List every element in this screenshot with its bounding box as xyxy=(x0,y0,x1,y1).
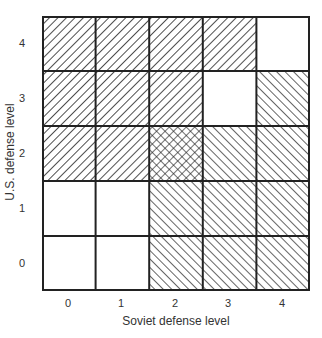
grid-cell-us1-soviet4 xyxy=(256,181,310,236)
grid-cell-us3-soviet3 xyxy=(203,71,257,126)
grid-cell-us2-soviet1 xyxy=(96,126,150,181)
grid-cell-us0-soviet3 xyxy=(203,236,257,291)
y-tick-4: 4 xyxy=(12,37,32,49)
grid-cell-us2-soviet2 xyxy=(149,126,203,181)
grid-cell-us0-soviet4 xyxy=(256,236,310,291)
grid-cell-us2-soviet3 xyxy=(203,126,257,181)
grid-cell-us3-soviet2 xyxy=(149,71,203,126)
x-tick-1: 1 xyxy=(111,297,131,309)
grid-cell-us4-soviet2 xyxy=(149,16,203,71)
grid-cell-us4-soviet3 xyxy=(203,16,257,71)
grid-cell-us1-soviet1 xyxy=(96,181,150,236)
grid-cell-us1-soviet3 xyxy=(203,181,257,236)
grid-cell-us2-soviet4 xyxy=(256,126,310,181)
grid-cell-us1-soviet0 xyxy=(42,181,96,236)
grid-cell-us4-soviet1 xyxy=(96,16,150,71)
y-tick-0: 0 xyxy=(12,257,32,269)
grid-cell-us4-soviet0 xyxy=(42,16,96,71)
grid-cell-us0-soviet2 xyxy=(149,236,203,291)
grid-cell-us3-soviet4 xyxy=(256,71,310,126)
grid-cell-us4-soviet4 xyxy=(256,16,310,71)
x-tick-4: 4 xyxy=(272,297,292,309)
defense-level-grid xyxy=(42,16,310,291)
grid-cell-us3-soviet1 xyxy=(96,71,150,126)
grid-cell-us0-soviet1 xyxy=(96,236,150,291)
grid-cell-us2-soviet0 xyxy=(42,126,96,181)
y-axis-label: U.S. defense level xyxy=(3,87,17,217)
x-tick-3: 3 xyxy=(218,297,238,309)
x-axis-label: Soviet defense level xyxy=(42,314,310,328)
grid-cell-us3-soviet0 xyxy=(42,71,96,126)
x-tick-0: 0 xyxy=(58,297,78,309)
x-tick-2: 2 xyxy=(165,297,185,309)
grid-cell-us1-soviet2 xyxy=(149,181,203,236)
grid-cell-us0-soviet0 xyxy=(42,236,96,291)
